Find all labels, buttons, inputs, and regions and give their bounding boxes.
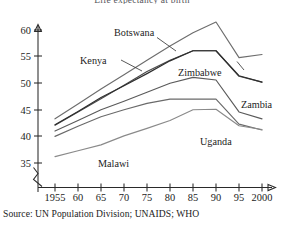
x-tick-labels: 1955 60 65 70 75 80 85 90 95 2000 <box>45 192 273 202</box>
series-label-kenya: Kenya <box>80 55 107 66</box>
y-tick-label-45: 45 <box>21 105 31 116</box>
series-label-malawi: Malawi <box>98 158 129 169</box>
x-tick-label-1985: 85 <box>188 192 198 202</box>
x-tick-label-1990: 90 <box>211 192 221 202</box>
source-note: Source: UN Population Division; UNAIDS; … <box>3 208 199 219</box>
line-chart-plot: 35 40 45 50 55 60 1955 60 65 70 75 <box>0 6 284 202</box>
x-tick-label-2000: 2000 <box>252 192 273 202</box>
x-tick-label-1980: 80 <box>165 192 175 202</box>
x-tick-label-1965: 65 <box>96 192 106 202</box>
series-label-botswana: Botswana <box>114 27 155 38</box>
x-axis <box>38 184 276 190</box>
y-tick-label-35: 35 <box>21 158 31 169</box>
y-tick-label-40: 40 <box>21 131 31 142</box>
x-tick-label-1970: 70 <box>119 192 129 202</box>
life-expectancy-figure: Life expectancy at birth 35 40 45 <box>0 0 284 225</box>
chart-title: Life expectancy at birth <box>0 0 284 4</box>
y-axis <box>34 25 43 193</box>
x-tick-label-1960: 60 <box>73 192 83 202</box>
x-tick-label-1975: 75 <box>142 192 152 202</box>
series-annotations: Botswana Kenya Zimbabwe Zambia Uganda Ma… <box>80 27 273 169</box>
y-tick-label-60: 60 <box>21 25 31 36</box>
series-line-botswana <box>55 22 262 119</box>
series-label-uganda: Uganda <box>200 136 232 147</box>
annotation-leader-lines <box>121 38 244 72</box>
y-tick-label-55: 55 <box>21 51 31 62</box>
x-tick-label-1955: 1955 <box>45 192 66 202</box>
series-label-zambia: Zambia <box>241 99 273 110</box>
leader-line-zambia <box>237 62 244 71</box>
y-tick-label-50: 50 <box>21 78 31 89</box>
x-tick-label-1995: 95 <box>234 192 244 202</box>
series-line-uganda <box>55 99 262 136</box>
y-tick-labels: 35 40 45 50 55 60 <box>21 25 31 169</box>
series-label-zimbabwe: Zimbabwe <box>178 67 222 78</box>
